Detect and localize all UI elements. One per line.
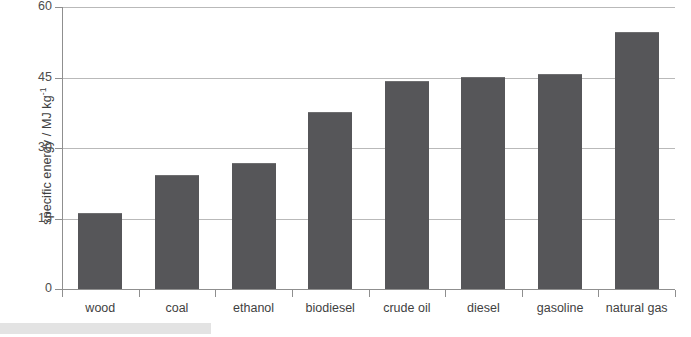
plot-area	[62, 7, 675, 289]
x-tick-mark-0	[62, 290, 63, 297]
bar-coal	[155, 175, 199, 289]
y-axis-title-text: specific energy / MJ kg	[40, 95, 54, 224]
x-tick-mark-1	[139, 290, 140, 297]
y-tick-label-45: 45	[8, 70, 52, 84]
y-axis-title-exponent: -1	[38, 87, 48, 95]
gridline-15	[62, 219, 675, 220]
gridline-60	[62, 7, 675, 8]
gridline-30	[62, 148, 675, 149]
y-tick-label-0: 0	[8, 281, 52, 295]
bar-wood	[78, 213, 122, 289]
x-tick-mark-8	[675, 290, 676, 297]
x-tick-mark-5	[445, 290, 446, 297]
y-tick-label-15: 15	[8, 211, 52, 225]
x-tick-mark-6	[522, 290, 523, 297]
bar-biodiesel	[308, 112, 352, 289]
y-tick-label-60: 60	[8, 0, 52, 13]
y-tick-label-30: 30	[8, 140, 52, 154]
y-tick-mark-15	[55, 219, 63, 220]
x-tick-mark-4	[369, 290, 370, 297]
scan-artifact	[0, 323, 211, 334]
x-tick-mark-7	[598, 290, 599, 297]
x-tick-mark-2	[215, 290, 216, 297]
x-tick-mark-3	[292, 290, 293, 297]
bar-natural-gas	[615, 32, 659, 289]
y-tick-mark-45	[55, 78, 63, 79]
bar-gasoline	[538, 74, 582, 289]
bar-chart: specific energy / MJ kg-1 015304560 wood…	[0, 0, 691, 337]
y-tick-mark-60	[55, 7, 63, 8]
bar-diesel	[461, 77, 505, 290]
y-tick-mark-30	[55, 148, 63, 149]
x-tick-label-natural-gas: natural gas	[587, 301, 687, 316]
bar-crude-oil	[385, 81, 429, 289]
bar-ethanol	[232, 163, 276, 289]
gridline-45	[62, 78, 675, 79]
